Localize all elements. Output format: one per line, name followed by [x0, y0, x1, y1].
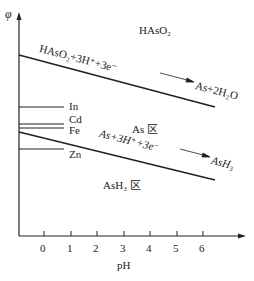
- x-axis-arrow-icon: [238, 234, 246, 239]
- x-tick-label-6: 6: [199, 243, 205, 254]
- x-axis-label: pH: [117, 260, 130, 271]
- y-axis-arrow-icon: [17, 12, 22, 20]
- region-label-hasoo2: HAsO₂: [139, 25, 171, 36]
- metal-label-in: In: [69, 101, 78, 112]
- metal-label-fe: Fe: [69, 125, 80, 136]
- x-tick-label-1: 1: [67, 243, 73, 254]
- x-tick-label-0: 0: [40, 243, 46, 254]
- x-tick-label-5: 5: [173, 243, 179, 254]
- y-axis-label: φ: [5, 8, 12, 20]
- metal-lines: [19, 107, 64, 149]
- region-label-ash3: AsH₃ 区: [103, 180, 141, 191]
- metal-label-zn: Zn: [69, 149, 81, 160]
- x-tick-label-2: 2: [93, 243, 99, 254]
- region-label-as: As 区: [132, 124, 158, 135]
- x-tick-label-4: 4: [146, 243, 152, 254]
- x-ticks: [44, 231, 203, 236]
- x-tick-label-3: 3: [120, 243, 126, 254]
